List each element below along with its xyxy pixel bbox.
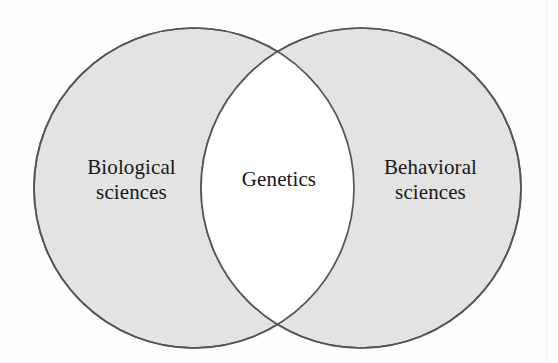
page-edge-artifact	[547, 0, 548, 363]
set-label-right-line2: sciences	[348, 180, 513, 205]
intersection-label-text: Genetics	[215, 167, 343, 192]
intersection-label: Genetics	[215, 167, 343, 192]
set-label-left: Biological sciences	[54, 155, 209, 204]
set-label-left-line2: sciences	[54, 180, 209, 205]
venn-diagram-container: Biological sciences Genetics Behavioral …	[0, 0, 558, 363]
set-label-right: Behavioral sciences	[348, 155, 513, 204]
set-label-right-line1: Behavioral	[348, 155, 513, 180]
set-label-left-line1: Biological	[54, 155, 209, 180]
